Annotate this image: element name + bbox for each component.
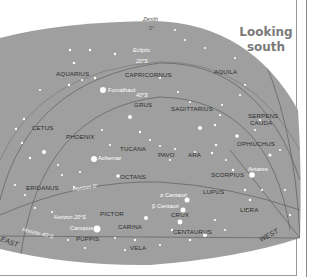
zenith-value: 0° — [149, 25, 155, 31]
constellation-lupus: LUPUS — [203, 188, 224, 195]
ecliptic-label: Ecliptic — [133, 47, 150, 53]
constellation-phoenix: PHOENIX — [66, 133, 95, 140]
star-beta-centauri: β Centauri — [152, 203, 179, 209]
star-alpha-centauri: α Centauri — [160, 192, 187, 198]
constellation-vela: VELA — [130, 244, 147, 251]
altitude-20-label: 20°S — [135, 58, 148, 64]
constellation-capricornus: CAPRICORNUS — [125, 71, 172, 78]
constellation-cetus: CETUS — [32, 124, 53, 131]
constellation-sagittarius: SAGITTARIUS — [171, 105, 213, 112]
constellation-crux: CRUX — [171, 211, 189, 218]
constellation-scorpius: SCORPIUS — [211, 171, 244, 178]
star-antares: Antares — [248, 166, 268, 172]
zenith-label: Zenith — [142, 16, 158, 22]
title-line-2: south — [236, 40, 296, 55]
constellation-eridanus: ERIDANUS — [26, 184, 59, 191]
constellation-carina: CARINA — [118, 223, 143, 230]
constellation-centaurus: CENTAURUS — [173, 228, 212, 235]
horizon-20-label: Horizon 20°S — [54, 214, 86, 220]
star-achernar: Achernar — [98, 155, 122, 161]
constellation-aquarius: AQUARIUS — [56, 70, 89, 77]
altitude-40-label: 40°S — [136, 92, 148, 98]
constellation-octans: OCTANS — [120, 173, 146, 180]
constellation-pictor: PICTOR — [100, 210, 124, 217]
constellation-ophiuchus: OPHIUCHUS — [237, 140, 275, 147]
constellation-libra: LIBRA — [240, 206, 259, 213]
constellation-serpens: SERPENS — [248, 112, 278, 119]
constellation-puppis: PUPPIS — [76, 235, 99, 242]
constellation-ara: ARA — [188, 151, 202, 158]
star-canopus: Canopus — [70, 225, 93, 231]
constellation-grus: GRUS — [134, 101, 152, 108]
title-line-1: Looking — [236, 25, 296, 40]
star-fomalhaut: Fomalhaut — [108, 87, 136, 93]
constellation-tucana: TUCANA — [120, 145, 147, 152]
chart-title: Looking south — [236, 25, 296, 55]
constellation-aquila: AQUILA — [214, 68, 238, 75]
constellation-cauda: CAUDA — [250, 119, 273, 126]
constellation-pavo: PAVO — [158, 151, 175, 158]
